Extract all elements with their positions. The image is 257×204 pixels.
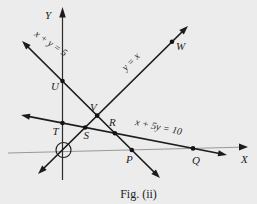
coordinate-diagram-canvas: Y X U V T S R P Q W x + y = 5 y = x x + … [0, 0, 257, 204]
equation-label-y-equals-x: y = x [119, 50, 142, 73]
figure-page: Y X U V T S R P Q W x + y = 5 y = x x + … [0, 0, 257, 204]
point-label-V: V [90, 101, 98, 113]
y-axis-label: Y [45, 9, 53, 21]
y-axis-arrow-icon [59, 7, 66, 18]
point-dot-U [60, 79, 65, 84]
point-label-S: S [84, 129, 90, 141]
line-x-plus-5y-10-left-arrow-icon [21, 114, 30, 120]
point-label-W: W [176, 40, 186, 52]
x-axis-label: X [240, 153, 249, 165]
point-label-Q: Q [192, 154, 200, 166]
origin-circle-marker-icon [56, 143, 71, 158]
point-label-T: T [53, 125, 60, 137]
line-x-plus-5y-10-right-arrow-icon [218, 150, 227, 156]
x-axis-arrow-icon [239, 144, 248, 151]
point-dot-Q [191, 146, 196, 151]
point-dot-T [60, 121, 65, 126]
point-dot-V [95, 113, 100, 118]
figure-caption: Fig. (ii) [120, 187, 157, 201]
point-dot-P [130, 148, 135, 153]
equation-label-x-plus-y-5: x + y = 5 [32, 27, 70, 58]
point-dot-W [170, 39, 175, 44]
point-label-P: P [125, 153, 133, 165]
point-dot-R [113, 131, 118, 136]
point-label-R: R [108, 116, 116, 128]
point-label-U: U [51, 80, 60, 92]
equation-label-x-plus-5y-10: x + 5y = 10 [133, 116, 183, 137]
